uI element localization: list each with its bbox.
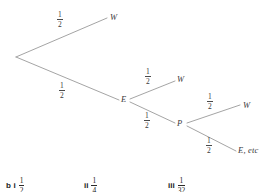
branch-probability-e-p: 1 2 bbox=[144, 112, 150, 129]
answer-fraction-i: 1 2 bbox=[19, 177, 25, 192]
answer-row: b i 1 2 ii 1 4 iii 1 32 bbox=[0, 166, 274, 192]
branch-probability-root-e: 1 2 bbox=[59, 82, 65, 99]
fraction-denominator: 2 bbox=[19, 186, 25, 192]
node-label-w3: W bbox=[243, 101, 250, 110]
fraction-numerator: 1 bbox=[57, 11, 63, 20]
fraction-denominator: 2 bbox=[144, 121, 150, 129]
fraction-denominator: 2 bbox=[59, 91, 65, 99]
fraction-numerator: 1 bbox=[91, 177, 97, 186]
fraction-numerator: 1 bbox=[178, 177, 186, 186]
fraction-denominator: 2 bbox=[207, 102, 213, 110]
answer-fraction-ii: 1 4 bbox=[91, 177, 97, 192]
branch-e-to-p bbox=[130, 102, 175, 123]
branch-probability-p-eetc: 1 2 bbox=[206, 137, 212, 154]
fraction-numerator: 1 bbox=[19, 177, 25, 186]
branch-probability-root-w1: 1 2 bbox=[57, 11, 63, 28]
fraction-numerator: 1 bbox=[144, 112, 150, 121]
node-label-w2: W bbox=[177, 75, 184, 84]
answer-part-label: b bbox=[6, 179, 11, 192]
fraction-denominator: 4 bbox=[91, 186, 97, 192]
probability-tree-figure: W E W P W E, etc 1 2 1 2 1 2 1 2 1 2 1 2… bbox=[0, 0, 274, 192]
branch-e-to-w2 bbox=[130, 81, 175, 99]
fraction-denominator: 2 bbox=[57, 20, 63, 28]
fraction-denominator: 2 bbox=[145, 77, 151, 85]
answer-item-ii: ii 1 4 bbox=[84, 168, 97, 192]
fraction-numerator: 1 bbox=[145, 68, 151, 77]
fraction-numerator: 1 bbox=[206, 137, 212, 146]
fraction-numerator: 1 bbox=[207, 93, 213, 102]
branch-p-to-w3 bbox=[187, 105, 240, 123]
fraction-denominator: 2 bbox=[206, 146, 212, 154]
answer-roman-ii: ii bbox=[84, 179, 88, 192]
answer-roman-iii: iii bbox=[168, 179, 175, 192]
branch-probability-p-w3: 1 2 bbox=[207, 93, 213, 110]
fraction-denominator: 32 bbox=[178, 186, 186, 192]
tree-branch-lines bbox=[0, 0, 274, 192]
node-label-w1: W bbox=[110, 13, 117, 22]
branch-root-to-e bbox=[16, 57, 119, 100]
answer-fraction-iii: 1 32 bbox=[178, 177, 186, 192]
node-label-e: E bbox=[121, 95, 126, 104]
answer-roman-i: i bbox=[13, 179, 15, 192]
node-label-e-etc: E, etc bbox=[238, 146, 259, 155]
fraction-numerator: 1 bbox=[59, 82, 65, 91]
answer-item-iii: iii 1 32 bbox=[168, 168, 185, 192]
branch-probability-e-w2: 1 2 bbox=[145, 68, 151, 85]
node-label-p: P bbox=[177, 119, 182, 128]
answer-item-i: b i 1 2 bbox=[6, 168, 24, 192]
